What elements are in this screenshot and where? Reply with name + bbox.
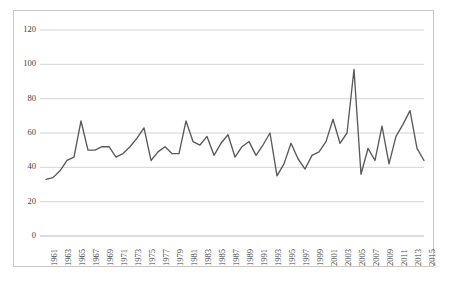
chart-figure: 020406080100120 196119631965196719691971…	[0, 0, 449, 281]
x-axis-tick-label: 1967	[92, 249, 101, 266]
line-chart-plot	[0, 0, 449, 281]
x-axis-tick-label: 2015	[428, 249, 437, 266]
x-axis-tick-label: 1987	[232, 249, 241, 266]
gridlines-group	[40, 30, 424, 236]
y-axis-tick-label: 100	[8, 59, 36, 68]
y-axis-tick-label: 20	[8, 197, 36, 206]
x-axis-tick-label: 1985	[218, 249, 227, 266]
x-axis-tick-label: 1979	[176, 249, 185, 266]
x-axis-tick-label: 1963	[64, 249, 73, 266]
x-axis-tick-label: 1961	[50, 249, 59, 266]
x-axis-tick-label: 1989	[246, 249, 255, 266]
x-axis-tick-label: 1999	[316, 249, 325, 266]
y-axis-tick-label: 120	[8, 25, 36, 34]
x-axis-tick-label: 2003	[344, 249, 353, 266]
x-axis-tick-label: 2007	[372, 249, 381, 266]
x-axis-tick-label: 1965	[78, 249, 87, 266]
y-axis-tick-label: 0	[8, 231, 36, 240]
y-axis-tick-label: 80	[8, 94, 36, 103]
x-axis-tick-label: 1995	[288, 249, 297, 266]
x-axis-tick-label: 1975	[148, 249, 157, 266]
x-axis-tick-label: 2011	[400, 249, 409, 266]
x-axis-tick-label: 1991	[260, 249, 269, 266]
x-axis-tick-label: 1983	[204, 249, 213, 266]
x-axis-tick-label: 1997	[302, 249, 311, 266]
y-axis-tick-label: 40	[8, 162, 36, 171]
x-axis-tick-label: 2013	[414, 249, 423, 266]
x-axis-tick-label: 1981	[190, 249, 199, 266]
x-axis-tick-label: 1993	[274, 249, 283, 266]
x-axis-tick-label: 2009	[386, 249, 395, 266]
x-axis-tick-label: 2005	[358, 249, 367, 266]
x-axis-tick-label: 1977	[162, 249, 171, 266]
x-axis-tick-label: 1973	[134, 249, 143, 266]
x-axis-tick-label: 2001	[330, 249, 339, 266]
x-axis-tick-label: 1969	[106, 249, 115, 266]
data-series-line	[46, 69, 424, 179]
y-axis-tick-label: 60	[8, 128, 36, 137]
x-axis-tick-label: 1971	[120, 249, 129, 266]
